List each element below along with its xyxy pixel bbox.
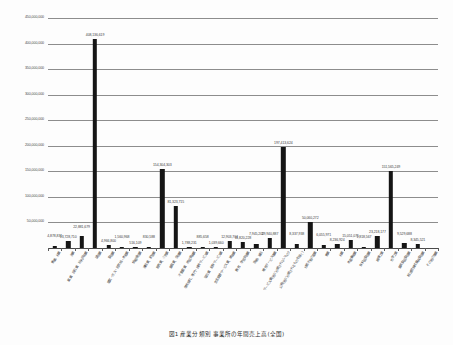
bar xyxy=(389,171,393,248)
bar-chart-figure: 450,000,000400,000,000350,000,000300,000… xyxy=(0,0,453,345)
bar-value-label: 1,818,567 xyxy=(357,236,372,240)
bar xyxy=(268,238,272,248)
bar-slot: 1,818,567 xyxy=(357,18,370,248)
x-axis-category-label: 建設業 xyxy=(95,251,103,260)
bar-value-label: 830,588 xyxy=(143,236,155,240)
y-axis-tick-label: 350,000,000 xyxy=(25,67,44,71)
bar xyxy=(308,222,312,248)
bar-slot: 23,218,177 xyxy=(371,18,384,248)
bar-value-label: 1,039,660 xyxy=(209,242,224,246)
bar-slot: 8,236,924 xyxy=(330,18,343,248)
x-axis-category-label: 製造業 xyxy=(109,251,117,260)
bar-slot: 8,345,521 xyxy=(411,18,424,248)
bar-slot: 516,109 xyxy=(129,18,142,248)
x-axis-category-label: 医療、福祉 xyxy=(253,251,264,265)
bar xyxy=(348,240,352,248)
y-axis-tick-label: 100,000,000 xyxy=(25,195,44,199)
y-axis-tick-label: 150,000,000 xyxy=(25,170,44,174)
x-axis-category-label: 食料品製造業 xyxy=(360,251,372,268)
y-axis-tick-label: 250,000,000 xyxy=(25,118,44,122)
x-axis-category-label: 教育、学習支援業 xyxy=(235,251,250,273)
x-axis-category-label: その他の事業 xyxy=(427,251,439,268)
x-axis-tick xyxy=(438,248,439,251)
bar-value-label: 4,966,800 xyxy=(101,240,116,244)
x-axis-category-label: 農業、林業 xyxy=(52,251,63,265)
bar-slot: 19,940,887 xyxy=(263,18,276,248)
bar xyxy=(66,241,70,248)
bar-slot: 9,529,688 xyxy=(398,18,411,248)
bar-slot: 151,565,249 xyxy=(384,18,397,248)
bar-slot: 1,039,660 xyxy=(209,18,222,248)
x-axis-labels: 農業、林業漁業鉱業、採石業、砂利採取業建設業製造業電気・ガス・熱供給・水道業情報… xyxy=(48,251,438,311)
bar-value-label: 1,788,231 xyxy=(182,242,197,246)
bar-value-label: 516,109 xyxy=(129,242,141,246)
bar-slot: 11,820,228 xyxy=(236,18,249,248)
bar-slot: 197,413,624 xyxy=(277,18,290,248)
y-axis-tick-label: 450,000,000 xyxy=(25,16,44,20)
bar-value-label: 8,337,938 xyxy=(289,233,304,237)
bar-series: 4,878,83113,728,71022,881,6794,966,8001,… xyxy=(48,18,438,248)
y-axis-tick-label: 50,000,000 xyxy=(27,221,44,225)
bar xyxy=(93,39,97,248)
bar xyxy=(281,147,285,248)
x-axis-category-label: 金属製品製造業 xyxy=(398,251,412,270)
bar-slot: 50,060,272 xyxy=(304,18,317,248)
bar-slot: 1,788,231 xyxy=(182,18,195,248)
bar-slot: 830,588 xyxy=(142,18,155,248)
bar-value-label: 154,304,303 xyxy=(153,164,172,168)
bar-value-label: 8,236,924 xyxy=(330,239,345,243)
x-axis-category-label: 林業 xyxy=(339,251,345,258)
x-axis-category-label: 漁業 xyxy=(70,251,76,258)
bar-slot: 13,728,710 xyxy=(61,18,74,248)
x-axis-category-label: 化学工業 xyxy=(389,251,398,263)
bar xyxy=(375,236,379,248)
bar xyxy=(227,241,231,248)
bar-value-label: 885,658 xyxy=(197,236,209,240)
bar-value-label: 9,529,688 xyxy=(397,233,412,237)
x-axis-category-label: 情報通信業 xyxy=(132,251,143,265)
bar xyxy=(79,236,83,248)
figure-caption: 図1 産業分類別 事業所の年間売上高(全国) xyxy=(0,330,453,338)
bar xyxy=(160,169,164,248)
x-axis-category-label: 繊維工業 xyxy=(376,251,385,263)
bar-slot: 7,945,202 xyxy=(250,18,263,248)
bar-slot: 22,881,679 xyxy=(75,18,88,248)
x-axis-category-label: 分類不能の産業 xyxy=(304,251,318,270)
bar-slot: 8,337,938 xyxy=(290,18,303,248)
y-axis-tick-label: 300,000,000 xyxy=(25,93,44,97)
bar-slot: 12,903,704 xyxy=(223,18,236,248)
bar-slot: 408,136,619 xyxy=(88,18,101,248)
bar-value-label: 408,136,619 xyxy=(86,34,105,38)
bar-slot: 1,560,968 xyxy=(115,18,128,248)
x-axis-category-label: 農業 xyxy=(325,251,331,258)
bar-slot: 154,304,303 xyxy=(156,18,169,248)
bar-slot: 15,051,075 xyxy=(344,18,357,248)
bar-value-label: 1,560,968 xyxy=(115,236,130,240)
y-axis-tick-label: 200,000,000 xyxy=(25,144,44,148)
bar-slot: 6,055,971 xyxy=(317,18,330,248)
bar-slot: 81,323,715 xyxy=(169,18,182,248)
plot-area: 450,000,000400,000,000350,000,000300,000… xyxy=(48,18,438,248)
y-axis-tick-label: 400,000,000 xyxy=(25,42,44,46)
bar-slot: 4,966,800 xyxy=(102,18,115,248)
bar-slot: 885,658 xyxy=(196,18,209,248)
bar xyxy=(174,206,178,248)
bar-slot: 4,878,831 xyxy=(48,18,61,248)
bar-value-label: 8,345,521 xyxy=(410,239,425,243)
x-axis-category-label: 水産養殖業 xyxy=(348,251,359,265)
